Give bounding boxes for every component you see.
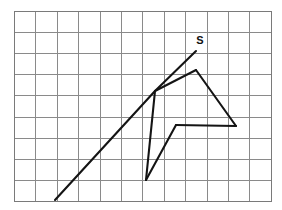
figure-container: S [0, 0, 282, 210]
segment-right-corner-to-mid-corner [176, 125, 236, 126]
segment-ray-to-s [155, 51, 196, 91]
polyline-shape-group [55, 51, 236, 200]
segment-junction-to-apex [155, 70, 196, 91]
grid-diagram-svg: S [0, 0, 282, 210]
labels-group: S [196, 34, 203, 46]
point-label-s: S [196, 34, 203, 46]
segment-incoming-ray [55, 91, 155, 200]
